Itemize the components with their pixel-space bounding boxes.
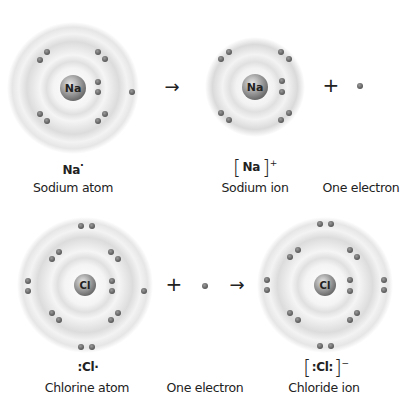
electron-label-top: One electron [323, 180, 400, 195]
sodium-atom-label: Sodium atom [33, 180, 113, 195]
chlorine-nucleus-symbol: Cl [80, 280, 91, 291]
chloride-ion-formula: [:Cl:]− [303, 355, 349, 379]
reaction-arrow-top: → [164, 76, 179, 97]
sodium-ion-formula: [Na]+ [233, 155, 277, 179]
chloride-nucleus-symbol: Cl [320, 280, 331, 291]
sodium-ion-nucleus-symbol: Na [247, 81, 264, 94]
chlorine-atom-label: Chlorine atom [45, 380, 129, 395]
chloride-ion-label: Chloride ion [288, 380, 359, 395]
electron-label-bottom: One electron [167, 380, 244, 395]
sodium-lewis-structure: Na· [62, 160, 83, 177]
free-electron-top [357, 83, 363, 89]
free-electron-bottom [202, 283, 208, 289]
reaction-arrow-bottom: → [229, 274, 244, 295]
ion-formation-diagram [0, 0, 411, 411]
plus-sign-bottom: + [166, 272, 183, 296]
chlorine-lewis-structure: :Cl· [77, 360, 98, 374]
sodium-nucleus-symbol: Na [65, 82, 82, 95]
sodium-ion-label: Sodium ion [221, 180, 288, 195]
plus-sign-top: + [323, 73, 340, 97]
